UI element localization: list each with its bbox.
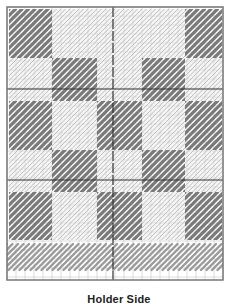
bottom-band — [0, 244, 238, 270]
caption: Holder Side — [0, 293, 238, 305]
stitch-chart — [0, 0, 238, 290]
stitch-blocks — [0, 9, 238, 240]
